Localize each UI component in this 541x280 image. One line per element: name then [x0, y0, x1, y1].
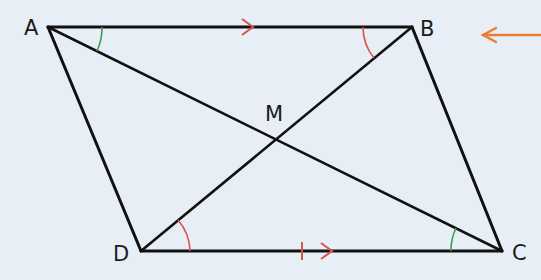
angle-arc-c-icon [451, 228, 456, 251]
pointer-arrow-icon [483, 28, 541, 42]
vertex-label-d: D [113, 242, 129, 266]
angle-arc-d-icon [178, 220, 190, 251]
side-bc [412, 27, 502, 251]
vertex-label-a: A [24, 16, 39, 40]
angle-arc-b-icon [363, 27, 374, 58]
diagonals [48, 27, 502, 251]
vertex-label-c: C [512, 241, 527, 265]
intersection-label-m: M [265, 102, 283, 126]
diagonal-bd [141, 27, 412, 251]
side-da [48, 27, 141, 251]
angle-arc-a-icon [97, 27, 102, 51]
vertex-label-b: B [420, 17, 434, 41]
parallelogram-diagram: A B C D M [0, 0, 541, 280]
